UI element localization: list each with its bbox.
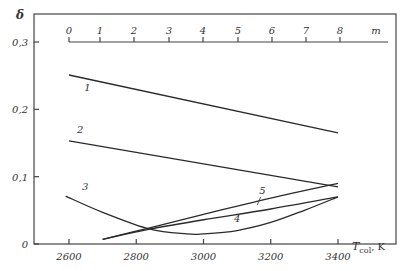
y-tick-label: 0,3 <box>12 37 28 48</box>
curve-label-2: 2 <box>76 124 83 135</box>
x-axis-title: Tcol, K <box>352 240 386 255</box>
m-tick-label: 8 <box>337 25 343 36</box>
m-tick-label: 2 <box>130 25 137 36</box>
x-axis-title-unit: , K <box>371 241 385 252</box>
y-tick-label: 0,2 <box>12 104 28 115</box>
m-axis: 012345678m <box>66 25 388 42</box>
m-tick-label: 0 <box>66 25 73 36</box>
x-tick-label: 3200 <box>258 251 284 262</box>
y-axis-title: δ <box>15 8 24 22</box>
m-tick-label: 3 <box>166 25 172 36</box>
y-axis: 00,10,20,3 <box>12 37 39 250</box>
curve-label-4: 4 <box>233 213 240 224</box>
curve-labels: 12345 <box>76 82 266 224</box>
m-tick-label: 6 <box>269 25 276 36</box>
m-tick-label: 1 <box>97 25 103 36</box>
x-tick-label: 2600 <box>55 251 82 262</box>
x-axis-title-sub: col <box>359 246 371 255</box>
x-tick-label: 3000 <box>191 251 217 262</box>
x-axis: 26002800300032003400 <box>55 239 351 262</box>
m-tick-label: 5 <box>235 25 241 36</box>
plot-frame <box>34 14 396 244</box>
curve-label-5: 5 <box>259 185 265 196</box>
m-axis-title: m <box>371 25 380 36</box>
y-tick-label: 0 <box>22 239 29 250</box>
x-tick-label: 2800 <box>123 251 150 262</box>
m-tick-label: 4 <box>199 25 206 36</box>
curve-label-3: 3 <box>82 181 88 192</box>
y-tick-label: 0,1 <box>12 172 28 183</box>
x-tick-label: 3400 <box>325 251 351 262</box>
series-group <box>66 75 338 239</box>
series-2-line <box>69 141 338 187</box>
series-1-line <box>69 75 338 133</box>
m-tick-label: 7 <box>303 25 310 36</box>
chart: 00,10,20,3 26002800300032003400 01234567… <box>0 0 408 271</box>
curve-label-1: 1 <box>84 82 90 93</box>
